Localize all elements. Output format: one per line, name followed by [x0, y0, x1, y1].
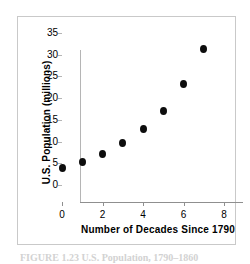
x-axis-tick-label: 8 [221, 208, 227, 221]
x-axis-title: Number of Decades Since 1790 [73, 224, 243, 235]
x-axis-tick-mark [103, 202, 104, 206]
x-axis-tick-mark [184, 202, 185, 206]
x-axis-tick-mark [143, 202, 144, 206]
chart-frame: 05101520253035 02468 Number of Decades S… [17, 16, 236, 245]
x-axis-line [80, 202, 243, 203]
x-axis-tick-label: 6 [181, 208, 187, 221]
x-axis-tick-label: 0 [59, 208, 65, 221]
y-axis-tick-label: 5 [52, 156, 58, 169]
data-point [59, 164, 66, 172]
data-point [140, 125, 147, 133]
x-axis-tick-label: 4 [140, 208, 146, 221]
data-point [200, 45, 207, 53]
data-point [99, 150, 106, 158]
plot-area [80, 50, 242, 202]
figure-caption: FIGURE 1.23 U.S. Population, 1790–1860 [20, 252, 235, 263]
y-axis-title: U.S. Population (millions) [41, 48, 52, 198]
y-axis-tick-label: 35 [47, 26, 58, 39]
x-axis-tick-mark [62, 202, 63, 206]
y-axis-tick-mark [58, 185, 62, 186]
y-axis-tick-mark [58, 76, 62, 77]
y-axis-tick-mark [58, 55, 62, 56]
y-axis-tick-mark [58, 33, 62, 34]
figure-container: 05101520253035 02468 Number of Decades S… [0, 0, 250, 264]
y-axis-tick-mark [58, 142, 62, 143]
y-axis-tick-mark [58, 98, 62, 99]
x-axis-tick-label: 2 [100, 208, 106, 221]
data-point [160, 107, 167, 115]
x-axis-tick-mark [224, 202, 225, 206]
y-axis-tick-label: 0 [52, 178, 58, 191]
data-point [79, 158, 86, 166]
y-axis-tick-mark [58, 120, 62, 121]
